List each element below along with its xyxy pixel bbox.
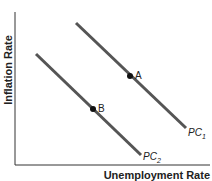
pc2-label: PC2 <box>143 151 161 164</box>
point-b-marker <box>90 106 96 112</box>
phillips-curve-chart: Inflation Rate Unemployment Rate A B PC1… <box>0 0 212 181</box>
x-axis-label: Unemployment Rate <box>104 169 210 181</box>
pc1-label: PC1 <box>188 127 206 140</box>
point-b-label: B <box>98 103 105 114</box>
point-a-marker <box>127 73 133 79</box>
y-axis-label: Inflation Rate <box>2 35 14 105</box>
point-a-label: A <box>135 70 142 81</box>
